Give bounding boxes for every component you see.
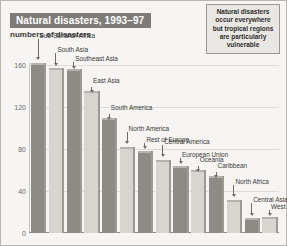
chart-frame: Natural disasters, 1993–97 numbers of di…: [0, 0, 287, 246]
bar[interactable]: [67, 71, 80, 233]
label-leader-line: [127, 132, 128, 141]
bar-face: [120, 149, 133, 233]
bar-face: [227, 202, 240, 234]
bar-face: [31, 65, 44, 233]
bar-face: [209, 178, 222, 233]
bar[interactable]: [49, 70, 62, 233]
bar[interactable]: [102, 120, 115, 233]
bar-face: [156, 162, 169, 233]
bar-category-label: North Africa: [235, 178, 268, 185]
label-leader-line: [109, 114, 110, 117]
label-leader-line: [180, 158, 181, 161]
bar-face: [191, 172, 204, 233]
label-leader-line: [144, 143, 145, 146]
y-axis-tick-label: 120: [14, 104, 26, 111]
bar[interactable]: [138, 153, 151, 233]
bar[interactable]: [173, 168, 186, 233]
label-leader-line: [91, 87, 92, 90]
plot-area: 04080120160 Sub-Saharan AfricaSouth Asia…: [31, 65, 279, 233]
bar-side-face: [80, 69, 82, 233]
bar[interactable]: [84, 93, 97, 233]
bar[interactable]: [245, 220, 258, 233]
y-axis-tick-label: 40: [18, 188, 26, 195]
bar-side-face: [240, 200, 242, 234]
label-leader-line: [216, 172, 217, 175]
bar-face: [49, 70, 62, 233]
label-leader-line: [73, 62, 74, 66]
bar[interactable]: [227, 202, 240, 234]
bar-category-label: Central Asia: [253, 196, 287, 203]
bar[interactable]: [156, 162, 169, 233]
bar[interactable]: [209, 178, 222, 233]
label-leader-line: [198, 166, 199, 169]
bar-face: [173, 168, 186, 233]
bar-side-face: [44, 63, 46, 233]
gridline: [31, 65, 279, 66]
bar-side-face: [98, 91, 100, 233]
bar-category-label: Sub-Saharan Africa: [40, 32, 95, 39]
bar-side-face: [276, 217, 278, 233]
bar-side-face: [62, 68, 64, 233]
bar-category-label: Central America: [164, 138, 209, 145]
bar-side-face: [151, 151, 153, 233]
bar-category-label: South Asia: [57, 46, 88, 53]
label-leader-line: [55, 53, 56, 63]
bar[interactable]: [120, 149, 133, 233]
y-axis-tick-label: 0: [22, 230, 26, 237]
label-leader-line: [233, 185, 234, 194]
callout-note: Natural disasters occur everywhere but t…: [206, 4, 280, 54]
bar-side-face: [169, 160, 171, 233]
bar-category-label: West Asia: [271, 203, 287, 210]
bar-face: [138, 153, 151, 233]
bar-face: [84, 93, 97, 233]
bar-category-label: East Asia: [93, 77, 120, 84]
label-leader-line: [251, 203, 252, 213]
bar-side-face: [204, 170, 206, 233]
page-title: Natural disasters, 1993–97: [10, 13, 151, 28]
bar-face: [262, 219, 275, 233]
bar[interactable]: [31, 65, 44, 233]
bar-category-label: Caribbean: [218, 162, 248, 169]
bar-side-face: [133, 147, 135, 233]
bar-side-face: [187, 166, 189, 233]
bar-side-face: [258, 218, 260, 233]
y-axis-tick-label: 160: [14, 62, 26, 69]
bar-category-label: Southeast Asia: [75, 55, 118, 62]
bar-side-face: [222, 176, 224, 233]
bar[interactable]: [262, 219, 275, 233]
bar-category-label: South America: [111, 104, 153, 111]
y-axis-tick-label: 80: [18, 146, 26, 153]
y-axis-line: [29, 63, 30, 233]
label-leader-line: [269, 210, 270, 213]
bar-face: [102, 120, 115, 233]
label-leader-line: [38, 39, 39, 57]
label-leader-line: [162, 145, 163, 154]
bar[interactable]: [191, 172, 204, 233]
bar-category-label: North America: [129, 125, 170, 132]
bar-side-face: [115, 118, 117, 233]
bar-face: [67, 71, 80, 233]
bar-face: [245, 220, 258, 233]
